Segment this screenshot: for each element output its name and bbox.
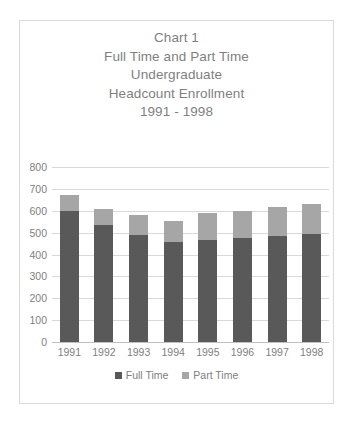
x-axis-tick-label: 1993 xyxy=(121,346,156,358)
bar-segment-part-time[interactable] xyxy=(129,215,148,235)
stacked-bar[interactable] xyxy=(60,195,79,342)
y-axis-tick-label: 600 xyxy=(29,205,47,217)
x-axis-tick-label: 1998 xyxy=(294,346,329,358)
gridline xyxy=(52,167,329,168)
y-axis-tick-label: 200 xyxy=(29,292,47,304)
stacked-bar[interactable] xyxy=(268,207,287,342)
y-axis-tick-label: 500 xyxy=(29,227,47,239)
x-axis-tick-label: 1997 xyxy=(260,346,295,358)
stacked-bar[interactable] xyxy=(302,204,321,342)
y-axis-tick-label: 700 xyxy=(29,183,47,195)
bar-segment-part-time[interactable] xyxy=(302,204,321,234)
y-axis-tick-label: 300 xyxy=(29,270,47,282)
legend-item-full-time[interactable]: Full Time xyxy=(115,369,169,381)
bar-segment-full-time[interactable] xyxy=(94,225,113,342)
x-axis-tick-label: 1992 xyxy=(87,346,122,358)
bar-segment-part-time[interactable] xyxy=(198,213,217,240)
axis-baseline xyxy=(52,342,329,343)
bar-segment-part-time[interactable] xyxy=(268,207,287,235)
legend-label-full-time: Full Time xyxy=(126,369,169,381)
legend-label-part-time: Part Time xyxy=(193,369,238,381)
plot-area: 0100200300400500600700800 19911992199319… xyxy=(52,21,329,405)
y-axis-tick-label: 800 xyxy=(29,161,47,173)
bar-segment-full-time[interactable] xyxy=(60,211,79,342)
bar-segment-full-time[interactable] xyxy=(233,238,252,342)
x-axis-tick-label: 1991 xyxy=(52,346,87,358)
y-axis-tick-label: 0 xyxy=(41,336,47,348)
bar-segment-full-time[interactable] xyxy=(129,235,148,342)
bar-segment-full-time[interactable] xyxy=(164,242,183,342)
legend-swatch-icon-full-time xyxy=(115,372,122,379)
x-axis-tick-label: 1995 xyxy=(191,346,226,358)
x-axis-tick-label: 1996 xyxy=(225,346,260,358)
legend-item-part-time[interactable]: Part Time xyxy=(182,369,238,381)
bar-segment-part-time[interactable] xyxy=(60,195,79,210)
bar-segment-part-time[interactable] xyxy=(94,209,113,225)
y-axis-tick-label: 100 xyxy=(29,314,47,326)
bar-segment-full-time[interactable] xyxy=(268,236,287,342)
chart-legend: Full Time Part Time xyxy=(20,369,333,381)
y-axis-tick-label: 400 xyxy=(29,249,47,261)
bar-segment-full-time[interactable] xyxy=(198,240,217,342)
bar-segment-part-time[interactable] xyxy=(233,211,252,238)
stacked-bar[interactable] xyxy=(233,211,252,342)
x-axis-tick-label: 1994 xyxy=(156,346,191,358)
stacked-bar[interactable] xyxy=(164,221,183,342)
legend-swatch-icon-part-time xyxy=(182,372,189,379)
bar-segment-part-time[interactable] xyxy=(164,221,183,243)
chart-container: Chart 1 Full Time and Part Time Undergra… xyxy=(19,20,334,404)
bar-segment-full-time[interactable] xyxy=(302,234,321,342)
stacked-bar[interactable] xyxy=(129,215,148,342)
gridline xyxy=(52,189,329,190)
stacked-bar[interactable] xyxy=(198,213,217,342)
stacked-bar[interactable] xyxy=(94,209,113,342)
